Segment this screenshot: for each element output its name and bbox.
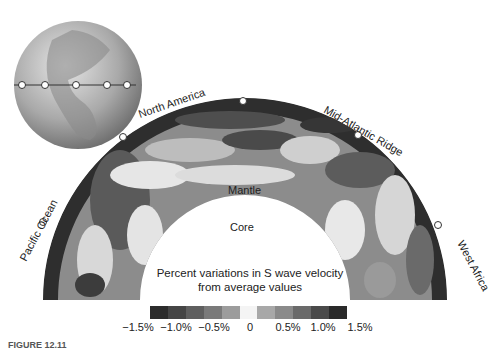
legend-swatch [275, 306, 293, 319]
label-mantle: Mantle [228, 184, 261, 196]
legend-color-bar [150, 306, 347, 319]
legend-title-line2: from average values [150, 280, 350, 294]
legend-swatch [186, 306, 204, 319]
legend-swatch [311, 306, 329, 319]
legend-swatch [257, 306, 275, 319]
label-core: Core [230, 221, 254, 233]
legend-swatch [240, 306, 258, 319]
legend-title-line1: Percent variations in S wave velocity [150, 266, 350, 280]
legend-tick-label: −1.5% [122, 321, 154, 333]
legend-tick-label: 0.5% [275, 321, 300, 333]
legend-swatch [329, 306, 347, 319]
legend-swatch [293, 306, 311, 319]
legend-tick-label: −0.5% [198, 321, 230, 333]
legend-swatch [150, 306, 168, 319]
legend-tick-label: 0 [247, 321, 253, 333]
legend-tick-label: −1.0% [160, 321, 192, 333]
label-west-africa: West Africa [455, 238, 492, 293]
legend-tick-label: 1.5% [347, 321, 372, 333]
legend-swatch [168, 306, 186, 319]
legend-swatch [222, 306, 240, 319]
figure-caption: FIGURE 12.11 [8, 340, 67, 350]
legend-tick-label: 1.0% [310, 321, 335, 333]
legend-ticks: −1.5%−1.0%−0.5%00.5%1.0%1.5% [118, 319, 380, 333]
legend-swatch [204, 306, 222, 319]
legend-title: Percent variations in S wave velocity fr… [150, 266, 350, 294]
tomography-diagram: Pacific Ocean North America Mid-Atlantic… [0, 0, 492, 350]
globe-inset [14, 21, 142, 149]
